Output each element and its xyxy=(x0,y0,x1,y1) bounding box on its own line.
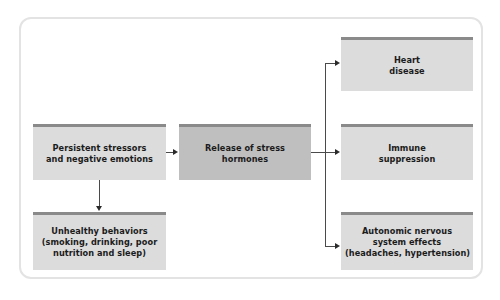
node-unhealthy-behaviors: Unhealthy behaviors (smoking, drinking, … xyxy=(33,212,166,270)
edge-stressors-to-behaviors-line xyxy=(99,180,100,207)
node-label-group: Immune suppression xyxy=(345,143,469,165)
arrowhead-icon-stressors-to-hormones xyxy=(173,149,178,155)
node-heart-disease: Heart disease xyxy=(341,37,473,91)
node-label-line: Autonomic nervous xyxy=(345,226,469,237)
node-persistent-stressors: Persistent stressors and negative emotio… xyxy=(33,124,166,180)
edge-hormones-to-trunk-line xyxy=(311,152,326,153)
arrowhead-icon-trunk-to-autonomic xyxy=(335,243,340,249)
node-label-group: Autonomic nervous system effects (headac… xyxy=(345,226,469,258)
node-label-line: and negative emotions xyxy=(37,154,162,165)
node-label-group: Unhealthy behaviors (smoking, drinking, … xyxy=(37,226,162,258)
arrowhead-icon-trunk-to-immune xyxy=(335,149,340,155)
node-label-group: Release of stress hormones xyxy=(183,143,307,165)
node-label-group: Heart disease xyxy=(345,55,469,77)
node-label-line: Unhealthy behaviors xyxy=(37,226,162,237)
node-immune-suppression: Immune suppression xyxy=(341,124,473,180)
edge-trunk-vertical-line xyxy=(325,63,326,246)
diagram-canvas: Persistent stressors and negative emotio… xyxy=(0,0,500,300)
node-label-line: (smoking, drinking, poor xyxy=(37,237,162,248)
arrowhead-icon-stressors-to-behaviors xyxy=(96,206,102,211)
node-label-line: nutrition and sleep) xyxy=(37,248,162,259)
node-label-line: Persistent stressors xyxy=(37,143,162,154)
node-label-group: Persistent stressors and negative emotio… xyxy=(37,143,162,165)
node-label-line: disease xyxy=(345,66,469,77)
node-label-line: Release of stress xyxy=(183,143,307,154)
arrowhead-icon-trunk-to-heart xyxy=(335,60,340,66)
node-label-line: Immune xyxy=(345,143,469,154)
node-label-line: system effects xyxy=(345,237,469,248)
node-autonomic-nervous-system-effects: Autonomic nervous system effects (headac… xyxy=(341,212,473,270)
node-label-line: (headaches, hypertension) xyxy=(345,248,469,259)
node-label-line: Heart xyxy=(345,55,469,66)
node-label-line: hormones xyxy=(183,154,307,165)
node-label-line: suppression xyxy=(345,154,469,165)
node-release-of-stress-hormones: Release of stress hormones xyxy=(179,124,311,180)
